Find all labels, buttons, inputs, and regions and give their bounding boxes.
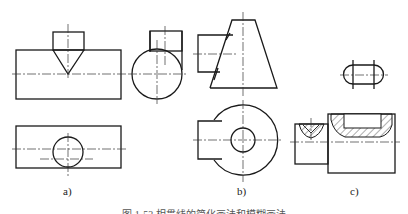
figure-a: [12, 24, 186, 176]
figure-caption: 图 1-53 相贯线的简化画法和模糊画法: [0, 206, 408, 214]
figure-b-label-text: b): [237, 185, 246, 197]
figure-c-section-view: [290, 114, 400, 173]
figure-c: [290, 60, 400, 173]
figure-b-front-view: [193, 12, 277, 96]
figure-c-slot-view: [340, 60, 388, 89]
figure-a-label: a): [63, 185, 72, 197]
figure-b: [193, 12, 282, 182]
technical-drawing: [0, 0, 408, 214]
figure-a-top-view: [12, 126, 126, 176]
figure-a-side-view: [128, 26, 186, 104]
figure-c-label: c): [350, 185, 359, 197]
figure-b-top-view: [193, 100, 282, 182]
figure-a-front-view: [12, 24, 126, 99]
